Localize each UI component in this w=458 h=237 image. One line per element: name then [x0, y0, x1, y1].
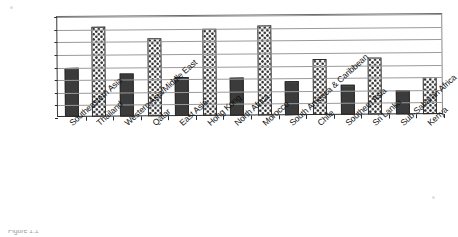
y-axis-tick-mark	[54, 55, 58, 56]
x-axis-tick-mark	[141, 116, 142, 120]
y-axis-tick-mark	[55, 118, 59, 119]
figure-caption-text: Figure 1.1	[8, 230, 112, 234]
x-axis-tick-mark	[416, 114, 417, 118]
y-axis-tick-mark	[54, 42, 58, 43]
bar	[92, 27, 107, 117]
x-axis-tick-mark	[444, 114, 445, 118]
x-axis-tick-mark	[279, 115, 280, 119]
bar	[340, 84, 354, 114]
y-axis-tick-mark	[54, 67, 58, 68]
x-axis-tick-mark	[361, 115, 362, 119]
plot-area: 01020304050607080	[56, 13, 443, 117]
bar	[312, 59, 326, 115]
y-axis-tick-mark	[54, 80, 58, 81]
x-axis-tick-mark	[86, 117, 87, 121]
x-axis-tick-mark	[306, 115, 307, 119]
x-axis-tick-mark	[334, 115, 335, 119]
y-axis-tick-mark	[54, 17, 58, 18]
bar	[368, 58, 382, 115]
x-axis-tick-mark	[196, 116, 197, 120]
x-axis-tick-mark	[389, 114, 390, 118]
x-axis-tick-mark	[168, 116, 169, 120]
scan-speck	[432, 196, 435, 199]
bar	[285, 81, 299, 115]
bar	[230, 78, 244, 116]
x-axis-tick-mark	[113, 117, 114, 121]
y-axis-tick-mark	[54, 105, 58, 106]
scan-speck	[10, 6, 13, 9]
y-axis-tick-mark	[54, 93, 58, 94]
x-axis-tick-mark	[223, 116, 224, 120]
bar	[423, 77, 437, 114]
bar	[257, 26, 272, 116]
bar	[175, 77, 189, 116]
y-axis-tick-mark	[54, 30, 58, 31]
x-axis-tick-mark	[251, 115, 252, 119]
figure-caption: Figure 1.1	[8, 230, 112, 237]
